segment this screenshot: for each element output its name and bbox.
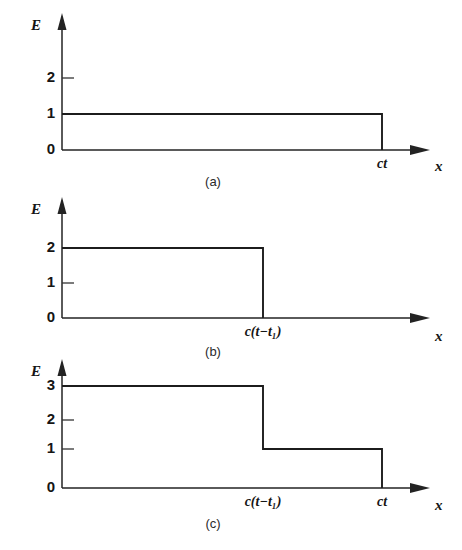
y-tick-label-2-b: 2 (47, 238, 55, 255)
y-axis-title-a: E (30, 17, 41, 33)
x-axis-arrow-icon-c (410, 483, 430, 493)
y-tick-label-2-c: 2 (47, 410, 55, 427)
x-axis-arrow-icon-a (410, 145, 430, 155)
plot-panel-a: 0 1 2 E x ct (a) (0, 0, 462, 190)
y-axis-title-c: E (30, 363, 41, 379)
y-axis-arrow-icon-b (58, 197, 67, 214)
y-tick-label-0-c: 0 (47, 478, 55, 495)
y-axis-title-b: E (30, 201, 41, 217)
y-axis-arrow-icon-c (58, 359, 67, 376)
figure-container: 0 1 2 E x ct (a) 0 1 2 E x c(t−t₁) (0, 0, 462, 550)
y-tick-label-1-c: 1 (47, 439, 55, 456)
step-curve-a (62, 114, 382, 150)
y-tick-label-2-a: 2 (47, 68, 55, 85)
y-tick-label-0-b: 0 (47, 308, 55, 325)
y-axis-arrow-icon-a (58, 13, 67, 30)
panel-caption-c: (c) (205, 516, 220, 531)
x-axis-title-c: x (434, 497, 443, 513)
x-tick-label-ct-c: ct (377, 494, 388, 509)
plot-panel-b: 0 1 2 E x c(t−t₁) (b) (0, 186, 462, 358)
step-curve-b (62, 248, 263, 318)
step-curve-c (62, 386, 382, 488)
y-tick-label-0-a: 0 (47, 140, 55, 157)
x-axis-title-a: x (434, 158, 443, 174)
x-tick-label-ct-a: ct (377, 156, 388, 171)
x-axis-title-b: x (434, 328, 443, 344)
y-tick-label-3-c: 3 (47, 376, 55, 393)
x-tick-label-step-c: c(t−t₁) (245, 494, 282, 510)
y-tick-label-1-b: 1 (47, 273, 55, 290)
x-tick-label-step-b: c(t−t₁) (245, 324, 282, 340)
y-tick-label-1-a: 1 (47, 104, 55, 121)
plot-panel-c: 0 1 2 3 E x c(t−t₁) ct (c) (0, 352, 462, 550)
x-axis-arrow-icon-b (410, 313, 430, 323)
